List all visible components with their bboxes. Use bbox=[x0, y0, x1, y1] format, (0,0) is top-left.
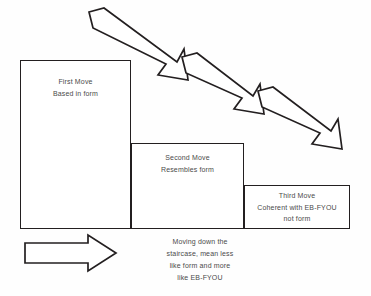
step-box-second-move[interactable] bbox=[131, 143, 244, 229]
caption-line-2: staircase, mean less bbox=[140, 248, 260, 260]
progression-arrow-right-icon bbox=[25, 235, 116, 271]
caption-text: Moving down the staircase, mean less lik… bbox=[140, 236, 260, 284]
caption-line-3: like form and more bbox=[140, 260, 260, 272]
step-box-third-move[interactable] bbox=[244, 185, 350, 229]
caption-line-1: Moving down the bbox=[140, 236, 260, 248]
caption-line-4: like EB-FYOU bbox=[140, 272, 260, 284]
descending-arrow-3-icon bbox=[258, 87, 342, 149]
step-box-first-move[interactable] bbox=[20, 60, 131, 229]
diagram-canvas: First Move Based in form Second Move Res… bbox=[0, 0, 371, 296]
descending-arrow-2-icon bbox=[182, 53, 264, 114]
